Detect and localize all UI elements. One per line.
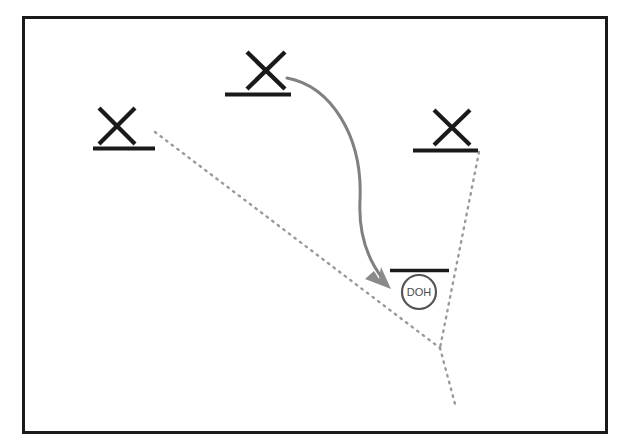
- diagram-canvas: DOH: [0, 0, 626, 446]
- survey-diagram: DOH: [0, 0, 626, 446]
- doh-marker-label: DOH: [407, 286, 432, 298]
- diagram-background: [0, 0, 626, 446]
